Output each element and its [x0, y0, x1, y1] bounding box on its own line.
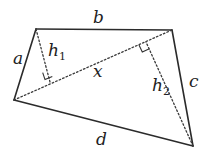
label-h2: h2	[152, 75, 170, 98]
quadrilateral-diagram: b a c d x h1 h2	[0, 0, 206, 155]
label-h1: h1	[48, 40, 66, 63]
label-d: d	[96, 129, 107, 149]
label-a: a	[13, 48, 23, 68]
label-c: c	[189, 71, 199, 91]
label-b: b	[93, 7, 104, 27]
side-b	[36, 29, 172, 30]
label-x: x	[93, 61, 103, 81]
